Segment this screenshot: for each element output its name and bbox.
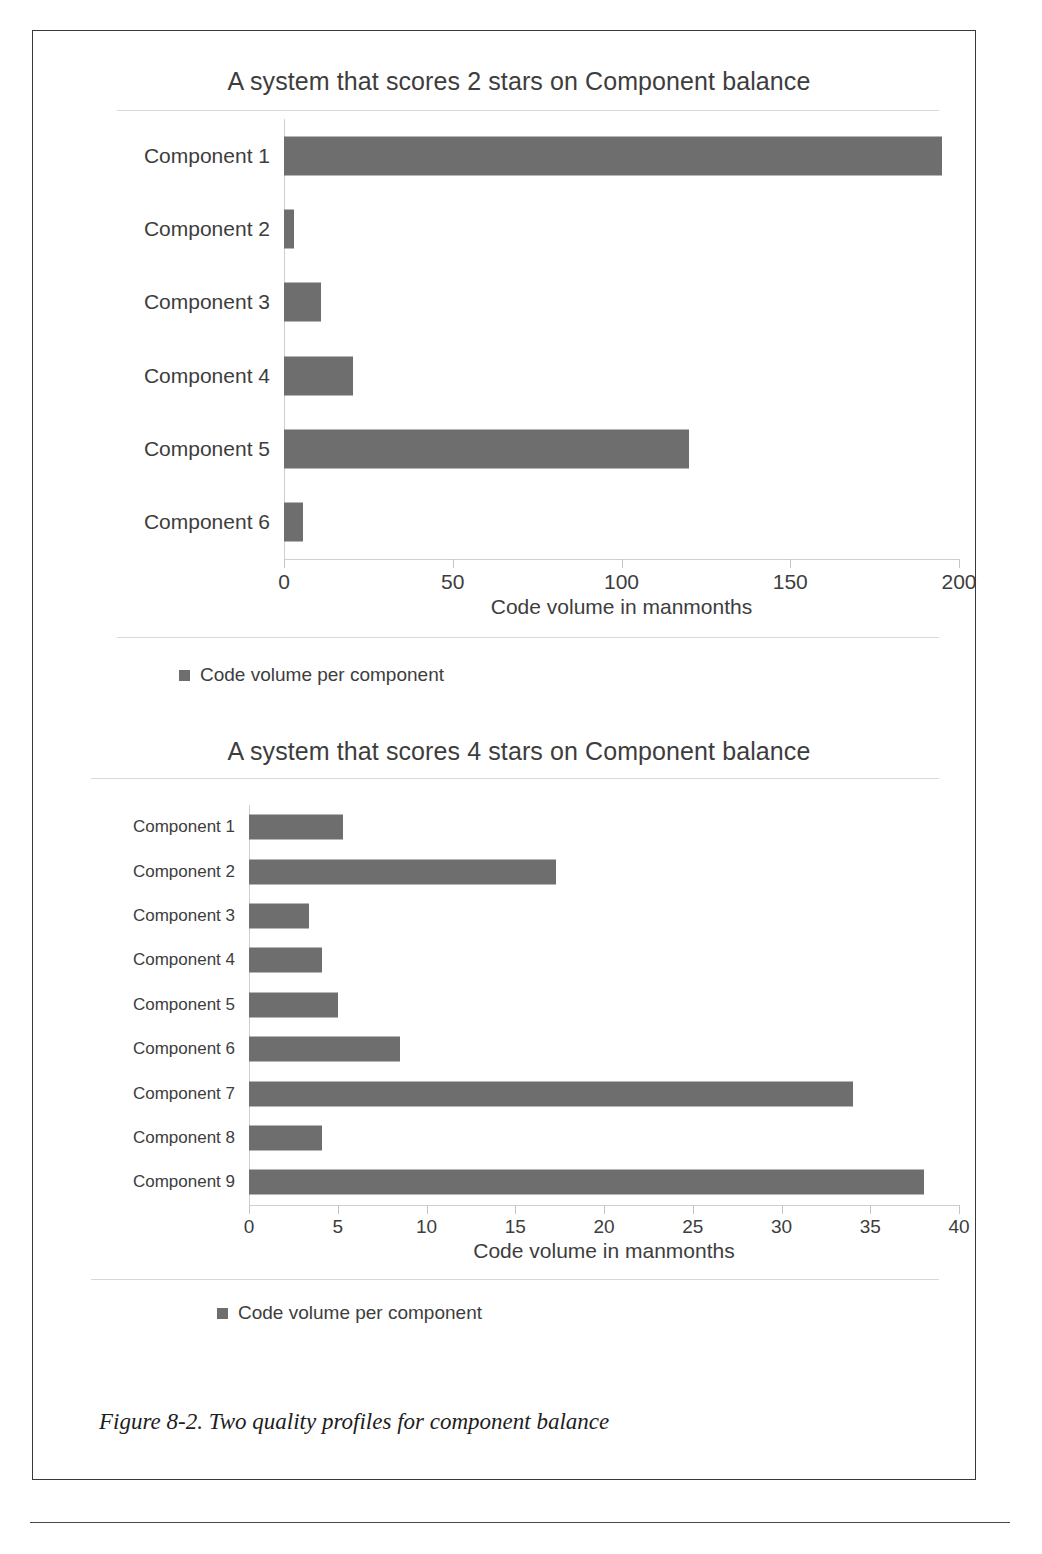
bar-row: Component 4 xyxy=(79,938,959,982)
bar-category-label: Component 5 xyxy=(79,437,284,461)
bar-track xyxy=(249,983,959,1027)
bar-row: Component 6 xyxy=(79,1027,959,1071)
bar-category-label: Component 2 xyxy=(79,862,249,882)
bar[interactable] xyxy=(284,429,689,468)
bar[interactable] xyxy=(249,859,556,884)
bar[interactable] xyxy=(249,948,322,973)
x-tick xyxy=(515,1205,516,1214)
bar[interactable] xyxy=(284,136,942,175)
bar-row: Component 6 xyxy=(79,485,959,558)
bar-category-label: Component 3 xyxy=(79,906,249,926)
bar-row: Component 8 xyxy=(79,1116,959,1160)
bar[interactable] xyxy=(284,283,321,322)
bar[interactable] xyxy=(284,503,303,542)
bar[interactable] xyxy=(249,903,309,928)
bar[interactable] xyxy=(249,815,343,840)
x-tick-label: 5 xyxy=(332,1216,343,1238)
bar-group: Component 1Component 2Component 3Compone… xyxy=(79,119,959,559)
x-axis-title: Code volume in manmonths xyxy=(284,595,959,619)
bar-track xyxy=(284,119,959,192)
bar[interactable] xyxy=(249,992,338,1017)
bar-track xyxy=(249,938,959,982)
x-tick xyxy=(453,559,454,568)
bar-category-label: Component 4 xyxy=(79,950,249,970)
x-tick-label: 0 xyxy=(278,570,290,594)
x-axis-title: Code volume in manmonths xyxy=(249,1239,959,1263)
x-tick-label: 20 xyxy=(593,1216,614,1238)
x-axis: 0510152025303540 Code volume in manmonth… xyxy=(249,1205,959,1265)
bar-category-label: Component 7 xyxy=(79,1084,249,1104)
chart-title: A system that scores 4 stars on Componen… xyxy=(79,737,959,766)
page-footer-divider xyxy=(30,1522,1010,1523)
x-tick-label: 200 xyxy=(941,570,976,594)
chart-two-stars: A system that scores 2 stars on Componen… xyxy=(79,67,959,686)
bar-row: Component 2 xyxy=(79,192,959,265)
bar-row: Component 3 xyxy=(79,894,959,938)
title-divider xyxy=(117,110,939,111)
x-tick xyxy=(338,1205,339,1214)
x-tick xyxy=(959,559,960,568)
bar-category-label: Component 9 xyxy=(79,1172,249,1192)
bar-category-label: Component 6 xyxy=(79,1039,249,1059)
page-frame: A system that scores 2 stars on Componen… xyxy=(32,30,976,1480)
figure-caption: Figure 8-2. Two quality profiles for com… xyxy=(99,1409,939,1435)
bar-row: Component 1 xyxy=(79,805,959,849)
x-tick-label: 10 xyxy=(416,1216,437,1238)
x-tick xyxy=(790,559,791,568)
legend-label: Code volume per component xyxy=(238,1302,482,1324)
x-tick-label: 25 xyxy=(682,1216,703,1238)
bar-row: Component 4 xyxy=(79,339,959,412)
plot-area: Component 1Component 2Component 3Compone… xyxy=(79,119,959,559)
bar-category-label: Component 8 xyxy=(79,1128,249,1148)
bar-row: Component 2 xyxy=(79,849,959,893)
title-divider xyxy=(91,778,939,779)
x-tick xyxy=(604,1205,605,1214)
bar-track xyxy=(249,1027,959,1071)
legend-divider xyxy=(91,1279,939,1280)
bar-track xyxy=(284,485,959,558)
chart-four-stars: A system that scores 4 stars on Componen… xyxy=(79,737,959,1324)
bar[interactable] xyxy=(284,356,353,395)
x-tick xyxy=(284,559,285,568)
x-tick-label: 150 xyxy=(773,570,808,594)
bar-category-label: Component 3 xyxy=(79,290,284,314)
x-tick xyxy=(870,1205,871,1214)
bar[interactable] xyxy=(249,1081,853,1106)
bar-row: Component 7 xyxy=(79,1071,959,1115)
x-tick-label: 35 xyxy=(860,1216,881,1238)
bar-category-label: Component 5 xyxy=(79,995,249,1015)
bar-row: Component 1 xyxy=(79,119,959,192)
x-tick-label: 40 xyxy=(948,1216,969,1238)
bar[interactable] xyxy=(249,1170,924,1195)
legend-swatch-icon xyxy=(179,670,190,681)
chart-legend: Code volume per component xyxy=(179,664,959,686)
bar[interactable] xyxy=(249,1125,322,1150)
bar-row: Component 3 xyxy=(79,266,959,339)
chart-legend: Code volume per component xyxy=(217,1302,959,1324)
x-axis: 050100150200 Code volume in manmonths xyxy=(284,559,959,621)
bar-category-label: Component 1 xyxy=(79,144,284,168)
x-tick xyxy=(622,559,623,568)
bar-group: Component 1Component 2Component 3Compone… xyxy=(79,805,959,1205)
bar-track xyxy=(249,849,959,893)
bar-row: Component 5 xyxy=(79,983,959,1027)
bar-category-label: Component 4 xyxy=(79,364,284,388)
x-tick xyxy=(249,1205,250,1214)
x-tick-label: 15 xyxy=(505,1216,526,1238)
bar[interactable] xyxy=(249,1037,400,1062)
legend-swatch-icon xyxy=(217,1308,228,1319)
bar-track xyxy=(249,894,959,938)
bar-track xyxy=(284,192,959,265)
x-tick-label: 0 xyxy=(244,1216,255,1238)
bar[interactable] xyxy=(284,209,294,248)
bar-track xyxy=(249,1160,959,1204)
x-tick xyxy=(427,1205,428,1214)
bar-row: Component 9 xyxy=(79,1160,959,1204)
bar-track xyxy=(249,1071,959,1115)
bar-track xyxy=(284,412,959,485)
x-tick-label: 30 xyxy=(771,1216,792,1238)
plot-area: Component 1Component 2Component 3Compone… xyxy=(79,805,959,1205)
bar-category-label: Component 6 xyxy=(79,510,284,534)
x-tick xyxy=(782,1205,783,1214)
x-tick-label: 50 xyxy=(441,570,464,594)
